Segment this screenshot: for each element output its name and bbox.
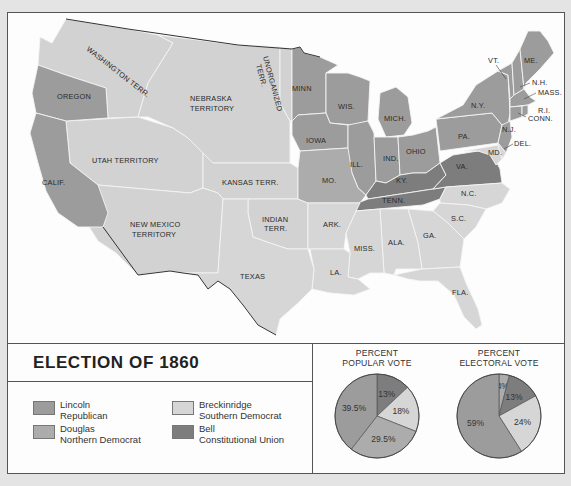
label-kansas-territory: KANSAS TERR. (222, 178, 278, 187)
label-mississippi: MISS. (354, 244, 375, 253)
legend-party: Constitutional Union (199, 434, 284, 445)
label-massachusetts: MASS. (538, 88, 562, 97)
pie-label-lincoln: 59% (467, 418, 484, 428)
label-tennessee: TENN. (382, 196, 405, 205)
legend-swatch-douglas (33, 425, 55, 439)
label-south-carolina: S.C. (451, 214, 466, 223)
legend-party: Republican (60, 410, 108, 421)
label-ohio: OHIO (406, 147, 426, 156)
label-oregon: OREGON (57, 92, 91, 101)
label-florida: FLA. (452, 288, 468, 297)
legend-party: Southern Democrat (199, 410, 281, 421)
label-connecticut: CONN. (528, 114, 553, 123)
label-illinois: ILL. (350, 160, 363, 169)
label-vermont: VT. (488, 56, 499, 65)
legend-panel: ELECTION OF 1860 Lincoln Republican Brec… (8, 344, 313, 474)
pie-label-breckinridge: 18% (392, 406, 409, 416)
label-arkansas: ARK. (323, 220, 341, 229)
label-delaware: DEL. (514, 139, 531, 148)
popular-vote-title-line2: POPULAR VOTE (317, 358, 437, 368)
legend-item-breckinridge: Breckinridge Southern Democrat (172, 399, 281, 421)
us-map: WASHINGTON TERR. OREGON NEBRASKA TERRITO… (8, 13, 564, 343)
legend-party: Northern Democrat (60, 434, 141, 445)
label-new-mexico-line2: TERRITORY (132, 230, 176, 239)
label-minnesota: MINN (292, 84, 312, 93)
label-indian-territory-line2: TERR. (264, 224, 287, 233)
label-virginia: VA. (456, 162, 468, 171)
map-title: ELECTION OF 1860 (33, 353, 199, 373)
legend-swatch-breckinridge (172, 401, 194, 415)
legend-swatch-lincoln (33, 401, 55, 415)
legend-name: Breckinridge (199, 399, 281, 410)
label-georgia: GA. (423, 231, 436, 240)
popular-vote-chart: PERCENT POPULAR VOTE 13%18%29.5%39.5% (317, 348, 437, 461)
electoral-vote-title-line1: PERCENT (439, 348, 559, 358)
label-new-mexico-line1: NEW MEXICO (130, 220, 181, 229)
legend-swatch-bell (172, 425, 194, 439)
label-missouri: MO. (322, 176, 337, 185)
label-indiana: IND. (383, 154, 399, 163)
label-louisiana: LA. (330, 268, 342, 277)
label-wisconsin: WIS. (338, 102, 355, 111)
label-new-hampshire: N.H. (532, 78, 548, 87)
label-maine: ME. (524, 56, 538, 65)
label-nebraska-line2: TERRITORY (190, 104, 234, 113)
electoral-vote-title-line2: ELECTORAL VOTE (439, 358, 559, 368)
title-bar: ELECTION OF 1860 (8, 344, 312, 382)
state-michigan (378, 87, 412, 137)
state-wisconsin (326, 73, 370, 125)
info-panel: ELECTION OF 1860 Lincoln Republican Brec… (8, 343, 564, 474)
label-north-carolina: N.C. (461, 189, 477, 198)
state-florida (394, 267, 482, 329)
pie-label-bell: 13% (378, 389, 395, 399)
label-iowa: IOWA (306, 136, 326, 145)
electoral-vote-chart: PERCENT ELECTORAL VOTE 4%13%24%59% (439, 348, 559, 461)
label-indian-territory-line1: INDIAN (262, 215, 288, 224)
label-alabama: ALA. (388, 238, 405, 247)
legend-name: Lincoln (60, 399, 108, 410)
label-california: CALIF. (42, 178, 65, 187)
label-nebraska-line1: NEBRASKA (190, 94, 232, 103)
popular-vote-pie: 13%18%29.5%39.5% (332, 371, 422, 461)
label-pennsylvania: PA. (458, 132, 470, 141)
legend-name: Bell (199, 423, 284, 434)
label-texas: TEXAS (240, 272, 265, 281)
pie-label-bell: 13% (505, 392, 522, 402)
electoral-vote-pie: 4%13%24%59% (454, 371, 544, 461)
legend-item-douglas: Douglas Northern Democrat (33, 423, 141, 445)
label-new-york: N.Y. (471, 101, 485, 110)
label-maryland: MD. (488, 148, 502, 157)
pie-label-breckinridge: 24% (514, 417, 531, 427)
charts-panel: PERCENT POPULAR VOTE 13%18%29.5%39.5% PE… (313, 344, 564, 474)
legend-item-bell: Bell Constitutional Union (172, 423, 284, 445)
label-michigan: MICH. (384, 114, 406, 123)
label-utah-territory: UTAH TERRITORY (92, 156, 159, 165)
legend-item-lincoln: Lincoln Republican (33, 399, 108, 421)
map-frame: WASHINGTON TERR. OREGON NEBRASKA TERRITO… (7, 12, 565, 474)
popular-vote-title-line1: PERCENT (317, 348, 437, 358)
pie-label-lincoln: 39.5% (342, 403, 367, 413)
label-new-jersey: N.J. (502, 125, 516, 134)
state-connecticut (510, 106, 522, 121)
legend-name: Douglas (60, 423, 141, 434)
pie-label-douglas: 29.5% (371, 434, 396, 444)
label-kentucky: KY. (396, 176, 408, 185)
